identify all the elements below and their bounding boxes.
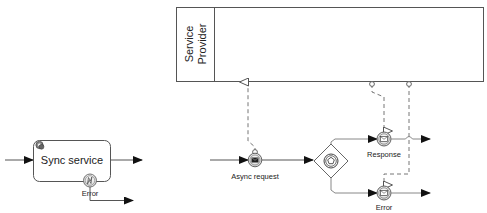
sequence-flow-out-of-response[interactable]	[391, 137, 430, 140]
message-flow-request[interactable]	[248, 82, 255, 152]
envelope-filled-icon	[252, 158, 259, 163]
pool-label: Service Provider	[183, 23, 208, 64]
async-request-event[interactable]	[248, 153, 262, 167]
async-request-label: Async request	[231, 172, 279, 181]
svg-text:Provider: Provider	[196, 23, 208, 64]
svg-text:Service: Service	[183, 26, 195, 63]
envelope-icon	[381, 191, 388, 196]
sync-service-task[interactable]: Sync service	[34, 141, 111, 182]
task-label: Sync service	[41, 154, 103, 166]
sequence-flow-to-response[interactable]	[331, 139, 377, 144]
boundary-error-event[interactable]	[84, 174, 97, 187]
event-based-gateway[interactable]	[314, 144, 348, 178]
response-label: Response	[367, 150, 401, 159]
response-event[interactable]	[377, 132, 391, 146]
pool-service-provider[interactable]: Service Provider	[177, 8, 484, 82]
error-message-event[interactable]	[377, 186, 391, 200]
envelope-icon	[381, 137, 388, 142]
sequence-flow-to-error[interactable]	[331, 178, 377, 193]
bpmn-diagram: Service Provider Sync service Error	[0, 0, 487, 213]
message-flow-response[interactable]	[372, 84, 384, 131]
error-event-label: Error	[376, 203, 393, 212]
